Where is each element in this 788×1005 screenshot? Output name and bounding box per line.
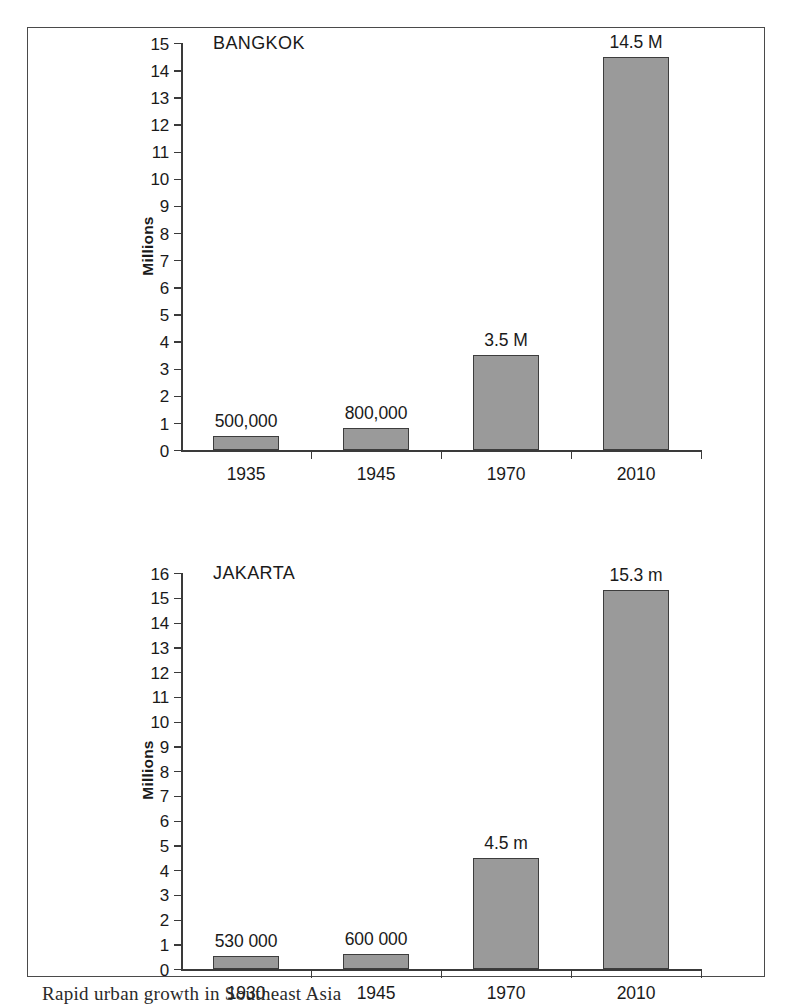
figure-frame: Millions BANGKOK 01234567891011121314155…	[27, 27, 765, 977]
y-axis-tick: 9	[174, 206, 181, 207]
y-axis-tick: 8	[174, 771, 181, 772]
x-axis-separator-tick	[441, 969, 442, 978]
y-axis-tick-label: 16	[150, 565, 169, 582]
y-axis-tick: 4	[174, 341, 181, 342]
x-axis-category-label: 2010	[571, 464, 701, 485]
y-axis-tick: 13	[174, 97, 181, 98]
y-axis-tick: 5	[174, 845, 181, 846]
y-axis-tick: 1	[174, 423, 181, 424]
x-axis-category-label: 1970	[441, 983, 571, 1004]
plot-area-jakarta: 012345678910111213141516530 0001930600 0…	[181, 573, 701, 969]
x-axis-separator-tick	[311, 450, 312, 459]
y-axis-tick-label: 5	[160, 837, 169, 854]
y-axis-tick: 14	[174, 70, 181, 71]
x-axis-separator-tick	[701, 450, 702, 459]
y-axis-tick-label: 5	[160, 307, 169, 324]
x-axis-separator-tick	[571, 969, 572, 978]
bar[interactable]	[473, 858, 539, 969]
y-axis-tick-label: 11	[152, 144, 169, 161]
y-axis-tick: 11	[174, 697, 181, 698]
bar-value-label: 500,000	[181, 411, 311, 432]
y-axis-tick: 3	[174, 369, 181, 370]
y-axis-tick-label: 9	[160, 198, 169, 215]
y-axis-tick: 1	[174, 944, 181, 945]
y-axis-tick-label: 1	[160, 936, 169, 953]
x-axis-separator-tick	[571, 450, 572, 459]
bar-value-label: 800,000	[311, 403, 441, 424]
y-axis-tick-label: 7	[160, 788, 169, 805]
y-axis-tick: 7	[174, 260, 181, 261]
y-axis-tick-label: 10	[150, 714, 169, 731]
y-axis-line-bangkok	[181, 43, 183, 450]
y-axis-tick-label: 15	[150, 590, 169, 607]
y-axis-tick-label: 10	[150, 171, 169, 188]
y-axis-tick: 8	[174, 233, 181, 234]
y-axis-tick: 7	[174, 796, 181, 797]
y-axis-tick-label: 2	[160, 912, 169, 929]
y-axis-tick: 14	[174, 623, 181, 624]
bar[interactable]	[603, 57, 669, 450]
y-axis-tick-label: 13	[150, 89, 169, 106]
bar[interactable]	[213, 436, 279, 450]
y-axis-tick-label: 8	[160, 763, 169, 780]
y-axis-tick: 5	[174, 314, 181, 315]
chart-panel-jakarta: Millions JAKARTA 01234567891011121314151…	[28, 513, 766, 978]
bar-value-label: 3.5 M	[441, 330, 571, 351]
x-axis-category-label: 2010	[571, 983, 701, 1004]
bar-value-label: 14.5 M	[571, 32, 701, 53]
bar-value-label: 530 000	[181, 931, 311, 952]
y-axis-tick: 0	[174, 450, 181, 451]
y-axis-tick-label: 0	[160, 442, 169, 459]
y-axis-tick-label: 0	[160, 961, 169, 978]
y-axis-tick-label: 4	[160, 334, 169, 351]
y-axis-tick-label: 12	[150, 664, 169, 681]
bar[interactable]	[473, 355, 539, 450]
y-axis-tick: 16	[174, 573, 181, 574]
bar-value-label: 600 000	[311, 929, 441, 950]
y-axis-tick-label: 6	[160, 813, 169, 830]
y-axis-tick: 11	[174, 152, 181, 153]
y-axis-tick-label: 1	[160, 415, 169, 432]
y-axis-tick-label: 2	[160, 388, 169, 405]
y-axis-tick-label: 11	[152, 689, 169, 706]
y-axis-tick-label: 13	[150, 639, 169, 656]
y-axis-tick: 3	[174, 895, 181, 896]
y-axis-tick: 4	[174, 870, 181, 871]
y-axis-tick: 9	[174, 746, 181, 747]
y-axis-tick: 6	[174, 821, 181, 822]
x-axis-category-label: 1945	[311, 464, 441, 485]
y-axis-tick: 0	[174, 969, 181, 970]
figure-caption: Rapid urban growth in Southeast Asia	[42, 983, 341, 1005]
y-axis-tick: 13	[174, 647, 181, 648]
bar[interactable]	[213, 956, 279, 969]
y-axis-tick-label: 7	[160, 252, 169, 269]
y-axis-tick-label: 15	[150, 35, 169, 52]
y-axis-tick: 6	[174, 287, 181, 288]
y-axis-tick-label: 14	[150, 615, 169, 632]
bar[interactable]	[343, 428, 409, 450]
x-axis-separator-tick	[311, 969, 312, 978]
plot-area-bangkok: 0123456789101112131415500,0001935800,000…	[181, 43, 701, 450]
bar-value-label: 15.3 m	[571, 565, 701, 586]
y-axis-tick-label: 8	[160, 225, 169, 242]
y-axis-tick: 10	[174, 722, 181, 723]
y-axis-tick: 15	[174, 43, 181, 44]
y-axis-line-jakarta	[181, 573, 183, 969]
y-axis-tick-label: 3	[160, 887, 169, 904]
x-axis-separator-tick	[701, 969, 702, 978]
y-axis-tick: 2	[174, 396, 181, 397]
y-axis-title-jakarta: Millions	[139, 735, 157, 805]
bar[interactable]	[343, 954, 409, 969]
y-axis-tick-label: 9	[160, 738, 169, 755]
y-axis-tick: 12	[174, 672, 181, 673]
x-axis-separator-tick	[441, 450, 442, 459]
y-axis-tick-label: 4	[160, 862, 169, 879]
bar-value-label: 4.5 m	[441, 833, 571, 854]
y-axis-tick: 12	[174, 124, 181, 125]
bar[interactable]	[603, 590, 669, 969]
y-axis-title-bangkok: Millions	[139, 211, 157, 281]
y-axis-tick-label: 14	[150, 62, 169, 79]
y-axis-tick: 15	[174, 598, 181, 599]
y-axis-tick-label: 12	[150, 117, 169, 134]
chart-panel-bangkok: Millions BANGKOK 01234567891011121314155…	[28, 28, 766, 496]
